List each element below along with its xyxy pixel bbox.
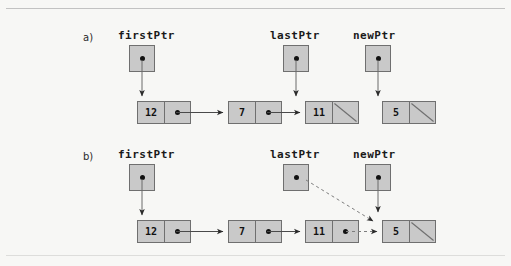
pointer-label-lastptr-b: lastPtr: [270, 148, 320, 161]
node-link-cell: [255, 221, 281, 242]
node-value: 5: [383, 102, 409, 123]
page-rule-bottom: [6, 255, 505, 256]
list-node-11-a[interactable]: 11: [305, 101, 359, 124]
pointer-dot-icon: [294, 56, 299, 61]
pointer-box-lastptr-a[interactable]: [283, 45, 309, 72]
pointer-dot-icon: [376, 175, 381, 180]
list-node-12-b[interactable]: 12: [137, 220, 191, 243]
section-label-a: a): [83, 32, 93, 43]
link-dot-icon: [175, 110, 180, 115]
list-node-12-a[interactable]: 12: [137, 101, 191, 124]
node-link-cell: [332, 221, 358, 242]
node-value: 7: [229, 221, 255, 242]
section-label-b: b): [83, 151, 93, 162]
list-node-7-a[interactable]: 7: [228, 101, 282, 124]
list-node-11-b[interactable]: 11: [305, 220, 359, 243]
pointer-box-firstptr-a[interactable]: [129, 45, 155, 72]
node-value: 7: [229, 102, 255, 123]
pointer-box-newptr-a[interactable]: [365, 45, 391, 72]
node-value: 11: [306, 221, 332, 242]
list-node-7-b[interactable]: 7: [228, 220, 282, 243]
node-link-cell: [255, 102, 281, 123]
link-dot-icon: [266, 110, 271, 115]
link-dot-icon: [175, 229, 180, 234]
list-node-5-b[interactable]: 5: [382, 220, 436, 243]
pointer-box-lastptr-b[interactable]: [283, 164, 309, 191]
node-value: 5: [383, 221, 409, 242]
node-null-cell: [332, 102, 358, 123]
node-link-cell: [164, 102, 190, 123]
dashed-arrow-lastptr-to-node5-b: [306, 180, 373, 221]
figure-page: a) firstPtr lastPtr newPtr 12 7 11 5: [0, 0, 511, 266]
node-link-cell: [164, 221, 190, 242]
link-dot-icon: [343, 229, 348, 234]
page-rule-top: [6, 8, 505, 9]
node-null-cell: [409, 102, 435, 123]
pointer-box-firstptr-b[interactable]: [129, 164, 155, 191]
pointer-label-newptr-b: newPtr: [353, 148, 396, 161]
node-value: 12: [138, 102, 164, 123]
link-dot-icon: [266, 229, 271, 234]
node-null-cell: [409, 221, 435, 242]
pointer-dot-icon: [140, 56, 145, 61]
null-slash-icon: [333, 102, 358, 123]
null-slash-icon: [410, 221, 435, 242]
pointer-dot-icon: [376, 56, 381, 61]
pointer-label-firstptr-a: firstPtr: [118, 29, 175, 42]
pointer-label-newptr-a: newPtr: [353, 29, 396, 42]
pointer-box-newptr-b[interactable]: [365, 164, 391, 191]
pointer-label-lastptr-a: lastPtr: [270, 29, 320, 42]
pointer-dot-icon: [140, 175, 145, 180]
null-slash-icon: [410, 102, 435, 123]
list-node-5-a[interactable]: 5: [382, 101, 436, 124]
node-value: 12: [138, 221, 164, 242]
node-value: 11: [306, 102, 332, 123]
pointer-label-firstptr-b: firstPtr: [118, 148, 175, 161]
pointer-dot-icon: [294, 175, 299, 180]
